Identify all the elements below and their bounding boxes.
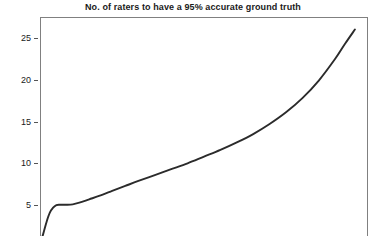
chart-figure: No. of raters to have a 95% accurate gro…	[0, 0, 386, 236]
y-tick-label: 25	[21, 33, 31, 42]
y-tick-mark	[34, 38, 38, 39]
y-tick-label: 15	[21, 117, 31, 126]
y-axis: 510152025	[0, 17, 38, 236]
y-tick-mark	[34, 205, 38, 206]
line-series-raters-needed	[40, 17, 368, 236]
y-tick-label: 5	[26, 201, 31, 210]
y-tick-mark	[34, 163, 38, 164]
chart-title: No. of raters to have a 95% accurate gro…	[0, 2, 386, 12]
y-tick-mark	[34, 80, 38, 81]
plot-area	[40, 17, 368, 236]
y-tick-label: 20	[21, 75, 31, 84]
y-tick-mark	[34, 122, 38, 123]
series-path	[40, 30, 355, 236]
y-tick-label: 10	[21, 159, 31, 168]
